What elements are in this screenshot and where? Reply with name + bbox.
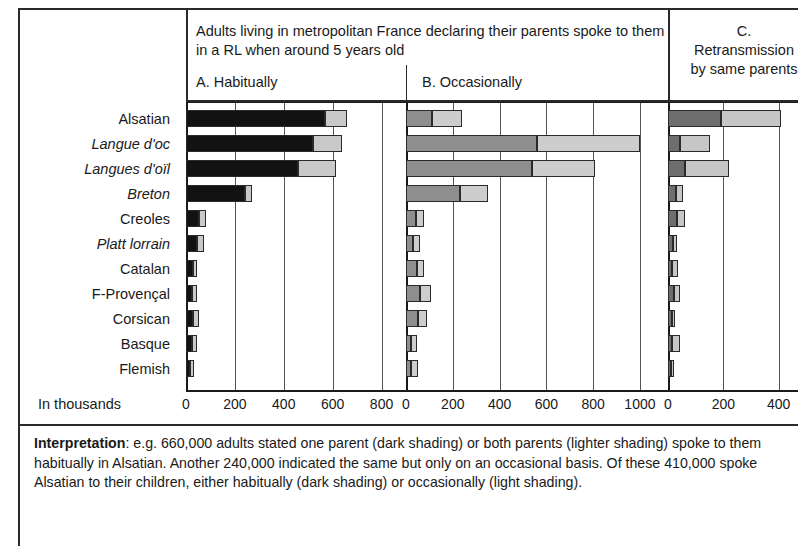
bar-segment-light <box>420 285 431 302</box>
bar-segment-dark <box>186 110 325 127</box>
bar-row <box>186 357 406 382</box>
axis-tick-label: 200 <box>441 396 464 412</box>
panel-c-title-line1: C. <box>670 22 812 41</box>
panel-b-occasionally: 02004006008001000 <box>406 102 668 392</box>
bar-segment-dark <box>406 260 417 277</box>
bar-row <box>186 157 406 182</box>
axis-tick-label: 400 <box>767 396 790 412</box>
bar-segment-dark <box>668 135 680 152</box>
bar-row <box>668 257 798 282</box>
bar-segment-dark <box>668 185 676 202</box>
bar-row <box>406 232 668 257</box>
bar-segment-dark <box>186 185 245 202</box>
category-label: Platt lorrain <box>97 232 170 257</box>
bar-row <box>668 282 798 307</box>
bar-segment-dark <box>186 310 193 327</box>
header-divider-panel-ab <box>406 65 407 102</box>
bar-row <box>668 307 798 332</box>
bar-row <box>668 132 798 157</box>
bar-segment-light <box>193 310 198 327</box>
bar-segment-dark <box>186 235 197 252</box>
bar-segment-light <box>245 185 252 202</box>
bar-row <box>406 132 668 157</box>
panel-bars <box>186 102 406 392</box>
bar-segment-dark <box>668 210 677 227</box>
axis-unit-caption: In thousands <box>38 396 121 412</box>
bar-segment-light <box>672 335 680 352</box>
category-label: Langues d'oïl <box>84 157 170 182</box>
bar-segment-dark <box>406 310 418 327</box>
bar-segment-light <box>413 235 420 252</box>
category-label: Flemish <box>119 357 170 382</box>
bar-segment-dark <box>406 135 537 152</box>
bar-segment-light <box>325 110 347 127</box>
panel-c-title-line3: by same parents <box>670 60 812 79</box>
bar-segment-dark <box>186 260 193 277</box>
panel-bars <box>668 102 798 392</box>
bar-segment-light <box>677 210 685 227</box>
header-divider-labels <box>186 10 188 102</box>
bar-segment-light <box>417 260 424 277</box>
bar-segment-light <box>460 185 488 202</box>
bar-segment-light <box>416 210 424 227</box>
bar-row <box>406 182 668 207</box>
bar-row <box>668 357 798 382</box>
axis-tick-label: 200 <box>712 396 735 412</box>
interpretation-label: Interpretation <box>34 435 125 451</box>
bar-row <box>186 107 406 132</box>
bar-segment-light <box>671 360 674 377</box>
bar-row <box>406 207 668 232</box>
bar-segment-dark <box>186 210 199 227</box>
bar-segment-light <box>192 335 197 352</box>
bar-row <box>186 232 406 257</box>
axis-tick-label: 0 <box>182 396 190 412</box>
panel-a-title: A. Habitually <box>196 73 277 92</box>
bar-segment-light <box>313 135 342 152</box>
chart-header: Adults living in metropolitan France dec… <box>20 10 798 102</box>
bar-row <box>406 282 668 307</box>
bar-row <box>668 107 798 132</box>
category-label: Basque <box>121 332 170 357</box>
category-label: Creoles <box>120 207 170 232</box>
bar-row <box>406 332 668 357</box>
axis-tick-label: 400 <box>272 396 295 412</box>
bar-segment-light <box>532 160 595 177</box>
panel-c-retransmission: 0200400 <box>668 102 798 392</box>
axis-tick-label: 600 <box>321 396 344 412</box>
bar-row <box>186 257 406 282</box>
bar-row <box>668 207 798 232</box>
axis-tick-label: 400 <box>488 396 511 412</box>
bar-row <box>668 182 798 207</box>
bar-segment-light <box>674 285 681 302</box>
bar-row <box>186 332 406 357</box>
panel-tick-labels: 0200400 <box>668 394 798 416</box>
category-label: Breton <box>127 182 170 207</box>
bar-segment-light <box>537 135 640 152</box>
category-label: F-Provençal <box>92 282 170 307</box>
bar-segment-dark <box>406 110 432 127</box>
category-axis-labels: AlsatianLangue d'ocLangues d'oïlBretonCr… <box>20 102 180 400</box>
bar-segment-dark <box>406 210 416 227</box>
bar-row <box>406 307 668 332</box>
axis-tick-label: 0 <box>664 396 672 412</box>
figure-container: Adults living in metropolitan France dec… <box>0 0 812 554</box>
bar-row <box>668 157 798 182</box>
bar-row <box>406 107 668 132</box>
category-label: Catalan <box>120 257 170 282</box>
bar-segment-light <box>673 235 677 252</box>
bar-row <box>668 332 798 357</box>
interpretation-text: : e.g. 660,000 adults stated one parent … <box>34 435 761 490</box>
bar-segment-light <box>199 210 205 227</box>
category-label: Corsican <box>113 307 170 332</box>
bar-row <box>406 257 668 282</box>
bar-segment-dark <box>406 160 532 177</box>
bar-segment-light <box>672 310 675 327</box>
axis-tick-label: 800 <box>370 396 393 412</box>
bar-row <box>406 157 668 182</box>
bar-segment-dark <box>186 135 313 152</box>
panel-b-title: B. Occasionally <box>422 73 522 92</box>
axis-tick-label: 0 <box>402 396 410 412</box>
axis-tick-label: 800 <box>581 396 604 412</box>
bar-segment-light <box>721 110 782 127</box>
bar-row <box>668 232 798 257</box>
